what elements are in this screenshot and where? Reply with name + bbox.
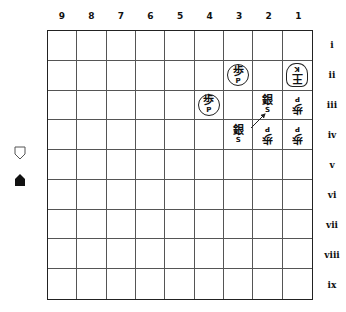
square-1-i[interactable] bbox=[283, 31, 312, 61]
square-9-vii[interactable] bbox=[48, 210, 77, 240]
square-9-iv[interactable] bbox=[48, 120, 77, 150]
square-7-viii[interactable] bbox=[107, 239, 136, 269]
square-9-viii[interactable] bbox=[48, 239, 77, 269]
square-3-vii[interactable] bbox=[224, 210, 253, 240]
square-6-iv[interactable] bbox=[136, 120, 165, 150]
square-9-ix[interactable] bbox=[48, 269, 77, 299]
square-3-iv[interactable]: 銀S bbox=[224, 120, 253, 150]
square-9-iii[interactable] bbox=[48, 91, 77, 121]
square-8-ii[interactable] bbox=[77, 61, 106, 91]
square-8-viii[interactable] bbox=[77, 239, 106, 269]
square-7-i[interactable] bbox=[107, 31, 136, 61]
square-4-iii[interactable]: 歩P bbox=[195, 91, 224, 121]
square-7-ii[interactable] bbox=[107, 61, 136, 91]
file-label: 9 bbox=[47, 11, 77, 25]
square-1-vi[interactable] bbox=[283, 180, 312, 210]
outline-piece-icon bbox=[14, 146, 26, 160]
square-8-ix[interactable] bbox=[77, 269, 106, 299]
file-label: 6 bbox=[136, 11, 166, 25]
square-2-i[interactable] bbox=[253, 31, 282, 61]
square-7-ix[interactable] bbox=[107, 269, 136, 299]
gote-pawn-piece[interactable]: 歩P bbox=[292, 95, 303, 114]
square-3-iii[interactable] bbox=[224, 91, 253, 121]
rank-label: vi bbox=[318, 180, 346, 210]
square-5-iv[interactable] bbox=[165, 120, 194, 150]
square-5-v[interactable] bbox=[165, 150, 194, 180]
square-3-ii[interactable]: 歩P bbox=[224, 61, 253, 91]
square-1-iii[interactable]: 歩P bbox=[283, 91, 312, 121]
square-1-viii[interactable] bbox=[283, 239, 312, 269]
piece-kanji: 王 bbox=[292, 74, 303, 85]
shogi-board: 歩P王K歩P銀S歩P銀S歩P歩P bbox=[47, 30, 313, 300]
square-5-iii[interactable] bbox=[165, 91, 194, 121]
square-7-iii[interactable] bbox=[107, 91, 136, 121]
square-5-viii[interactable] bbox=[165, 239, 194, 269]
gote-pawn-piece[interactable]: 歩P bbox=[262, 125, 273, 144]
square-1-iv[interactable]: 歩P bbox=[283, 120, 312, 150]
square-6-vi[interactable] bbox=[136, 180, 165, 210]
square-6-vii[interactable] bbox=[136, 210, 165, 240]
sente-pawn-piece[interactable]: 歩P bbox=[227, 64, 249, 86]
gote-pawn-piece[interactable]: 歩P bbox=[292, 125, 303, 144]
square-3-viii[interactable] bbox=[224, 239, 253, 269]
square-9-ii[interactable] bbox=[48, 61, 77, 91]
square-4-ii[interactable] bbox=[195, 61, 224, 91]
square-5-i[interactable] bbox=[165, 31, 194, 61]
square-4-viii[interactable] bbox=[195, 239, 224, 269]
square-8-iii[interactable] bbox=[77, 91, 106, 121]
square-3-v[interactable] bbox=[224, 150, 253, 180]
square-6-i[interactable] bbox=[136, 31, 165, 61]
square-4-vii[interactable] bbox=[195, 210, 224, 240]
square-2-v[interactable] bbox=[253, 150, 282, 180]
square-4-v[interactable] bbox=[195, 150, 224, 180]
square-1-vii[interactable] bbox=[283, 210, 312, 240]
square-7-vii[interactable] bbox=[107, 210, 136, 240]
square-4-i[interactable] bbox=[195, 31, 224, 61]
square-8-v[interactable] bbox=[77, 150, 106, 180]
square-3-vi[interactable] bbox=[224, 180, 253, 210]
square-8-vii[interactable] bbox=[77, 210, 106, 240]
square-7-v[interactable] bbox=[107, 150, 136, 180]
sente-pawn-piece[interactable]: 歩P bbox=[198, 94, 220, 116]
piece-kanji: 歩 bbox=[292, 133, 303, 144]
piece-letter: P bbox=[265, 125, 270, 132]
square-6-v[interactable] bbox=[136, 150, 165, 180]
square-6-ii[interactable] bbox=[136, 61, 165, 91]
square-2-ii[interactable] bbox=[253, 61, 282, 91]
square-5-ii[interactable] bbox=[165, 61, 194, 91]
square-6-ix[interactable] bbox=[136, 269, 165, 299]
square-4-vi[interactable] bbox=[195, 180, 224, 210]
square-4-ix[interactable] bbox=[195, 269, 224, 299]
gote-king-piece[interactable]: 王K bbox=[286, 63, 308, 87]
sente-silver-piece[interactable]: 銀S bbox=[262, 95, 273, 114]
square-3-i[interactable] bbox=[224, 31, 253, 61]
square-2-iv[interactable]: 歩P bbox=[253, 120, 282, 150]
square-8-vi[interactable] bbox=[77, 180, 106, 210]
piece-letter: P bbox=[206, 107, 211, 114]
square-3-ix[interactable] bbox=[224, 269, 253, 299]
square-7-iv[interactable] bbox=[107, 120, 136, 150]
square-9-i[interactable] bbox=[48, 31, 77, 61]
square-2-ix[interactable] bbox=[253, 269, 282, 299]
square-5-vii[interactable] bbox=[165, 210, 194, 240]
square-2-vii[interactable] bbox=[253, 210, 282, 240]
square-1-v[interactable] bbox=[283, 150, 312, 180]
square-2-vi[interactable] bbox=[253, 180, 282, 210]
square-6-viii[interactable] bbox=[136, 239, 165, 269]
square-7-vi[interactable] bbox=[107, 180, 136, 210]
square-5-vi[interactable] bbox=[165, 180, 194, 210]
square-9-vi[interactable] bbox=[48, 180, 77, 210]
square-8-i[interactable] bbox=[77, 31, 106, 61]
square-6-iii[interactable] bbox=[136, 91, 165, 121]
square-9-v[interactable] bbox=[48, 150, 77, 180]
sente-silver-piece[interactable]: 銀S bbox=[233, 125, 244, 144]
square-2-iii[interactable]: 銀S bbox=[253, 91, 282, 121]
piece-letter: P bbox=[236, 78, 241, 85]
square-1-ii[interactable]: 王K bbox=[283, 61, 312, 91]
sente-hand-indicator bbox=[14, 172, 26, 186]
square-8-iv[interactable] bbox=[77, 120, 106, 150]
square-2-viii[interactable] bbox=[253, 239, 282, 269]
square-1-ix[interactable] bbox=[283, 269, 312, 299]
square-5-ix[interactable] bbox=[165, 269, 194, 299]
square-4-iv[interactable] bbox=[195, 120, 224, 150]
